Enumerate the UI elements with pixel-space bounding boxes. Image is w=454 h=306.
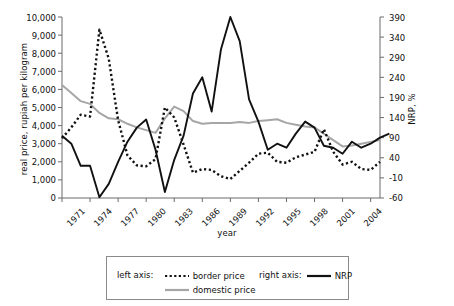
legend-label-domestic-price: domestic price (193, 285, 256, 295)
right-axis-ticks (380, 17, 384, 198)
legend-label-nrp: NRP (335, 271, 352, 281)
chart-figure: real price, rupiah per kilogram NRP, % y… (0, 0, 454, 306)
legend-item-nrp: NRP (306, 270, 352, 281)
nrp-swatch-icon (306, 271, 332, 280)
legend-right-axis-label: right axis: (259, 270, 302, 280)
legend-item-domestic-price: domestic price (164, 284, 255, 295)
series-line-nrp (62, 17, 389, 197)
domestic-price-swatch-icon (164, 285, 190, 294)
left-axis-ticks (58, 17, 62, 198)
border-price-swatch-icon (164, 271, 190, 280)
legend-label-border-price: border price (193, 271, 245, 281)
series-line-domestic-price (62, 85, 380, 147)
axes-group (58, 17, 384, 202)
chart-legend: left axis: border price right axis: NRP … (106, 256, 349, 300)
legend-item-border-price: border price (164, 270, 245, 281)
legend-left-axis-label: left axis: (117, 270, 153, 280)
x-axis-ticks (62, 198, 371, 202)
